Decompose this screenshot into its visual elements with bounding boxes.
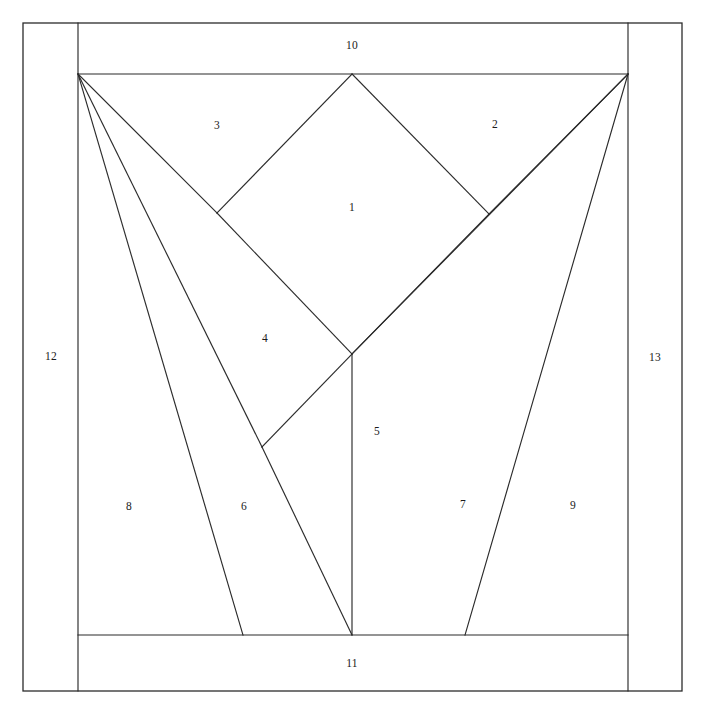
edge-layer (23, 23, 682, 691)
region-11-label: 11 (346, 657, 357, 669)
region-13-label: 13 (649, 351, 661, 363)
diamond-lower-left (217, 213, 352, 354)
region-10-label: 10 (346, 39, 358, 51)
region-1-label: 1 (349, 201, 355, 213)
region-3-label: 3 (214, 119, 220, 131)
diamond-upper-right (352, 74, 489, 214)
region-5-label: 5 (374, 425, 380, 437)
diagram-canvas: 12345678910111213 (0, 0, 705, 716)
region-12-label: 12 (45, 350, 57, 362)
region-8-label: 8 (126, 500, 132, 512)
ray-tl-to-base-left (78, 74, 243, 635)
ray-tr-to-base-right (465, 74, 628, 635)
region-4-label: 4 (262, 332, 268, 344)
diagram-svg (0, 0, 705, 716)
region-6-label: 6 (241, 500, 247, 512)
edge-mid-kink-to-base-center (262, 447, 352, 635)
region-2-label: 2 (492, 118, 498, 130)
edge-mid-kink-to-diamond-bottom (262, 354, 352, 447)
region-9-label: 9 (570, 499, 576, 511)
diamond-upper-left (217, 74, 352, 213)
ray-tl-to-mid-kink (78, 74, 262, 447)
region-7-label: 7 (460, 498, 466, 510)
